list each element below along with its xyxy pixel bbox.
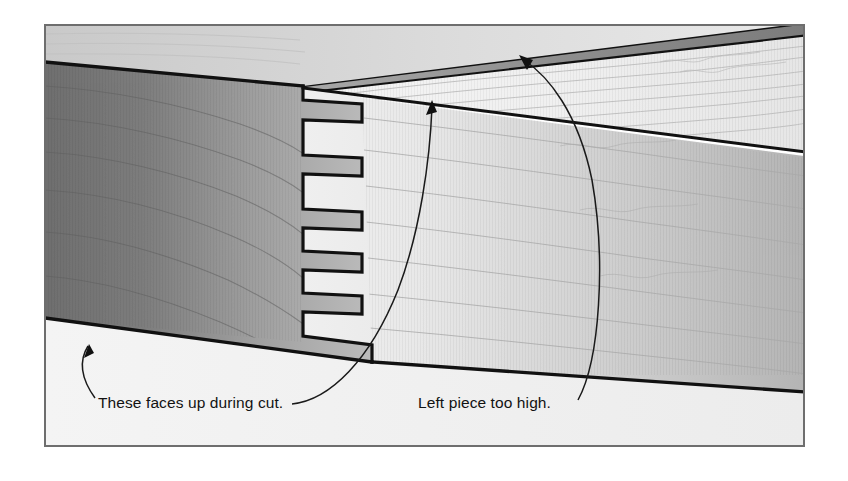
callout-faces-up-label: These faces up during cut. bbox=[98, 394, 283, 411]
illustration-page: These faces up during cut. Left piece to… bbox=[0, 0, 848, 481]
callout-too-high-label: Left piece too high. bbox=[418, 394, 551, 411]
box-joint-figure: These faces up during cut. Left piece to… bbox=[0, 0, 848, 481]
